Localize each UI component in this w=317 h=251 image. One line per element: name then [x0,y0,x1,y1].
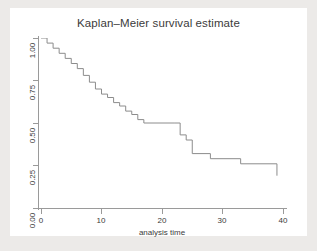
y-axis-line [38,36,39,210]
x-tick-label-30: 30 [207,216,237,225]
plot-area [41,38,283,208]
x-axis-title: analysis time [41,228,283,237]
y-tick-label-0.75: 0.75 [28,80,37,106]
y-tick-label-wrap-0.75: 0.75 [4,75,32,85]
x-tick-label-40: 40 [268,216,298,225]
y-tick-label-1.00: 1.00 [28,38,37,64]
x-tick-label-0: 0 [26,216,56,225]
y-tick-label-0.50: 0.50 [28,123,37,149]
page-title: Kaplan–Meier survival estimate [0,17,317,29]
x-tick-label-10: 10 [86,216,116,225]
y-tick-label-wrap-1.00: 1.00 [4,33,32,43]
x-tick-mark-40 [283,209,284,214]
survival-step-line [41,38,277,176]
y-tick-label-wrap-0.50: 0.50 [4,118,32,128]
y-tick-label-wrap-0.00: 0.00 [4,203,32,213]
x-tick-mark-30 [222,209,223,214]
kaplan-meier-figure: Kaplan–Meier survival estimate 1.00 0.75… [0,0,317,251]
survival-curve [41,38,283,208]
x-tick-mark-0 [41,209,42,214]
x-tick-label-20: 20 [147,216,177,225]
y-tick-label-wrap-0.25: 0.25 [4,160,32,170]
x-tick-mark-10 [101,209,102,214]
y-tick-label-0.25: 0.25 [28,165,37,191]
x-tick-mark-20 [162,209,163,214]
